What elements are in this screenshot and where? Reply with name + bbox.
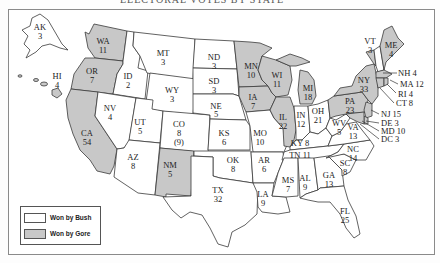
votes-wi: 11 xyxy=(273,79,281,89)
votes-ny: 33 xyxy=(360,84,369,94)
legend-label-gore: Won by Gore xyxy=(50,230,90,237)
legend-swatch-bush xyxy=(24,213,46,223)
votes-mo: 10 xyxy=(256,137,265,147)
votes-ga: 13 xyxy=(325,179,334,189)
leader-ri xyxy=(387,84,396,93)
state-az[interactable] xyxy=(114,140,160,195)
votes-nm: 5 xyxy=(168,169,172,179)
votes-oh: 21 xyxy=(314,115,323,125)
votes-fl: 25 xyxy=(341,215,350,225)
votes-in: 12 xyxy=(297,119,306,129)
votes-co-note: (9) xyxy=(174,137,184,147)
votes-id: 2 xyxy=(126,80,130,90)
legend-item-gore: Won by Gore xyxy=(24,228,90,239)
votes-il: 22 xyxy=(279,121,288,131)
votes-ok: 8 xyxy=(231,164,235,174)
label-ky: KY 8 xyxy=(291,138,309,148)
state-fl[interactable] xyxy=(300,186,360,238)
votes-mn: 10 xyxy=(247,70,256,80)
votes-wy: 3 xyxy=(170,94,174,104)
votes-ar: 6 xyxy=(262,164,266,174)
votes-pa: 23 xyxy=(346,105,355,115)
votes-sc: 8 xyxy=(343,167,347,177)
votes-tx: 32 xyxy=(214,194,223,204)
votes-sd: 3 xyxy=(212,85,216,95)
votes-wa: 11 xyxy=(99,45,107,55)
legend-item-bush: Won by Bush xyxy=(24,212,91,223)
map-legend: Won by Bush Won by Gore xyxy=(20,206,101,245)
votes-ks: 6 xyxy=(222,137,226,147)
label-tn: TN 11 xyxy=(289,150,311,160)
label-ma: MA 12 xyxy=(400,79,424,89)
votes-ak: 3 xyxy=(38,31,42,41)
label-ct: CT 8 xyxy=(396,98,413,108)
votes-nc: 14 xyxy=(349,153,358,163)
votes-vt: 3 xyxy=(368,45,372,55)
leader-ma xyxy=(390,80,398,84)
votes-mt: 3 xyxy=(161,57,165,67)
votes-la: 9 xyxy=(261,198,265,208)
leader-ct xyxy=(380,88,394,103)
votes-wv: 5 xyxy=(337,127,341,137)
legend-label-bush: Won by Bush xyxy=(50,214,91,221)
state-ma[interactable] xyxy=(376,70,392,78)
state-nj[interactable] xyxy=(364,102,372,118)
votes-mi: 18 xyxy=(304,92,313,102)
label-dc: DC 3 xyxy=(381,134,399,144)
votes-ut: 5 xyxy=(138,126,142,136)
votes-ia: 7 xyxy=(251,101,255,111)
votes-or: 7 xyxy=(90,75,94,85)
votes-va: 13 xyxy=(349,131,358,141)
votes-az: 8 xyxy=(131,161,135,171)
state-ak[interactable] xyxy=(22,14,68,58)
votes-ms: 7 xyxy=(286,184,290,194)
votes-nd: 3 xyxy=(212,61,216,71)
legend-swatch-gore xyxy=(24,229,46,239)
votes-ne: 5 xyxy=(214,109,218,119)
votes-hi: 4 xyxy=(55,80,60,90)
votes-ca: 54 xyxy=(83,137,92,147)
votes-al: 9 xyxy=(303,182,307,192)
state-nm[interactable] xyxy=(155,148,194,197)
label-nh: NH 4 xyxy=(398,68,417,78)
state-co[interactable] xyxy=(160,111,210,153)
